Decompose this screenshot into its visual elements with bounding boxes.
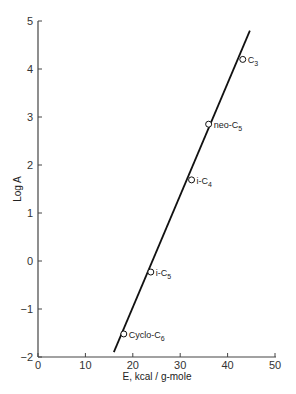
data-point-marker: [148, 269, 154, 275]
axes: [38, 21, 276, 357]
chart-canvas: 01020304050 −2−1012345 Cyclo-C6i-C5i-C4n…: [0, 0, 296, 394]
x-ticks: 01020304050: [35, 353, 281, 371]
x-tick-label: 0: [35, 359, 41, 371]
y-tick-label: 3: [27, 111, 33, 123]
y-tick-label: −1: [20, 303, 33, 315]
data-point-marker: [121, 331, 127, 337]
y-tick-label: 0: [27, 255, 33, 267]
y-axis-title: Log A: [12, 176, 23, 202]
regression-line: [114, 31, 250, 353]
data-point-marker: [240, 56, 246, 62]
data-point-marker: [206, 121, 212, 127]
y-tick-label: 5: [27, 15, 33, 27]
x-tick-label: 10: [79, 359, 91, 371]
y-tick-label: 2: [27, 159, 33, 171]
x-tick-label: 20: [127, 359, 139, 371]
data-point-label: neo-C5: [214, 120, 243, 132]
x-tick-label: 50: [269, 359, 281, 371]
data-point-label: i-C5: [156, 268, 172, 280]
data-point-marker: [189, 177, 195, 183]
y-ticks: −2−1012345: [20, 15, 42, 363]
y-tick-label: 1: [27, 207, 33, 219]
x-tick-label: 40: [221, 359, 233, 371]
x-tick-label: 30: [174, 359, 186, 371]
data-points: Cyclo-C6i-C5i-C4neo-C5C3: [121, 55, 258, 342]
data-point-label: C3: [248, 55, 259, 67]
y-tick-label: 4: [27, 63, 33, 75]
x-axis-title: E, kcal / g-mole: [123, 371, 192, 382]
y-tick-label: −2: [20, 351, 33, 363]
fit-line: [114, 31, 250, 353]
data-point-label: i-C4: [197, 176, 213, 188]
data-point-label: Cyclo-C6: [129, 330, 165, 342]
